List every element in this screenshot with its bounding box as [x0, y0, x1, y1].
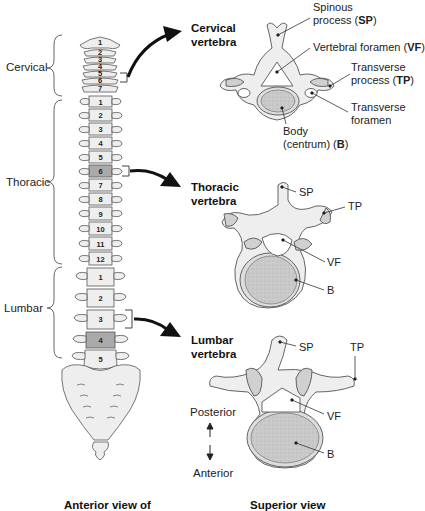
- orientation-arrow: [207, 423, 213, 460]
- body-line2-prefix: (centrum) (: [283, 138, 337, 150]
- body-line1: Body: [283, 125, 348, 138]
- tp-abbr: TP: [396, 74, 410, 86]
- svg-text:5: 5: [98, 355, 102, 364]
- cervical-vertebra-title: Cervical vertebra: [191, 21, 236, 49]
- svg-text:6: 6: [98, 167, 102, 176]
- region-label-thoracic: Thoracic: [6, 176, 50, 189]
- body-abbr: B: [337, 138, 345, 150]
- lumbar-label-vf: VF: [327, 410, 341, 423]
- svg-text:5: 5: [98, 153, 102, 162]
- coccyx: [92, 442, 108, 460]
- svg-text:9: 9: [98, 210, 102, 219]
- label-transverse-foramen: Transverse foramen: [351, 101, 406, 127]
- svg-text:2: 2: [98, 294, 102, 303]
- svg-text:3: 3: [98, 315, 102, 324]
- svg-text:1: 1: [98, 273, 102, 282]
- lumbar-vertebra-title: Lumbar vertebra: [191, 333, 236, 361]
- label-body: Body (centrum) (B): [283, 125, 348, 151]
- tf-line2: foramen: [351, 114, 406, 127]
- svg-text:10: 10: [96, 225, 104, 234]
- pointer-arrows: [128, 26, 182, 337]
- region-label-cervical: Cervical: [6, 61, 48, 74]
- label-vertebral-foramen: Vertebral foramen (VF): [313, 41, 425, 54]
- label-spinous-process: Spinous process (SP): [313, 1, 377, 27]
- vf-abbr: VF: [407, 41, 421, 53]
- lumbar-title-line2: vertebra: [191, 347, 236, 361]
- thoracic-title-line1: Thoracic: [191, 180, 239, 194]
- caption-anterior-view: Anterior view of: [64, 499, 151, 511]
- lumbar-label-sp: SP: [299, 341, 314, 354]
- sp-suffix: ): [373, 14, 377, 26]
- thoracic-vertebra-title: Thoracic vertebra: [191, 180, 239, 208]
- svg-text:7: 7: [98, 84, 102, 93]
- region-label-lumbar: Lumbar: [4, 302, 43, 315]
- svg-text:8: 8: [98, 195, 102, 204]
- sp-line1: Spinous: [313, 1, 377, 14]
- sacrum: [62, 365, 141, 440]
- svg-text:7: 7: [98, 181, 102, 190]
- svg-text:1: 1: [98, 98, 102, 107]
- thoracic-label-sp: SP: [299, 186, 314, 199]
- tp-suffix: ): [410, 74, 414, 86]
- sp-abbr: SP: [358, 14, 373, 26]
- vf-prefix: Vertebral foramen (: [313, 41, 407, 53]
- lumbar-title-line1: Lumbar: [191, 333, 236, 347]
- caption-superior-view: Superior view: [250, 499, 325, 511]
- svg-text:2: 2: [98, 111, 102, 120]
- tp-line1: Transverse: [351, 61, 414, 74]
- thoracic-label-vf: VF: [327, 256, 341, 269]
- orientation-anterior: Anterior: [193, 467, 233, 480]
- svg-text:11: 11: [97, 240, 105, 249]
- sp-line2-prefix: process (: [313, 14, 358, 26]
- thoracic-label-b: B: [327, 284, 334, 297]
- thoracic-title-line2: vertebra: [191, 194, 239, 208]
- vf-suffix: ): [421, 41, 425, 53]
- thoracic-label-tp: TP: [348, 200, 362, 213]
- orientation-posterior: Posterior: [190, 406, 236, 419]
- svg-text:12: 12: [96, 255, 104, 264]
- svg-text:3: 3: [98, 125, 102, 134]
- lumbar-label-b: B: [327, 448, 334, 461]
- brace-cervical: [47, 35, 62, 96]
- svg-text:1: 1: [98, 38, 102, 47]
- brace-lumbar: [47, 267, 62, 358]
- cervical-title-line2: vertebra: [191, 35, 236, 49]
- cervical-title-line1: Cervical: [191, 21, 236, 35]
- tf-line1: Transverse: [351, 101, 406, 114]
- label-transverse-process: Transverse process (TP): [351, 61, 414, 87]
- body-suffix: ): [345, 138, 349, 150]
- tp-line2-prefix: process (: [351, 74, 396, 86]
- lumbar-label-tp: TP: [350, 341, 364, 354]
